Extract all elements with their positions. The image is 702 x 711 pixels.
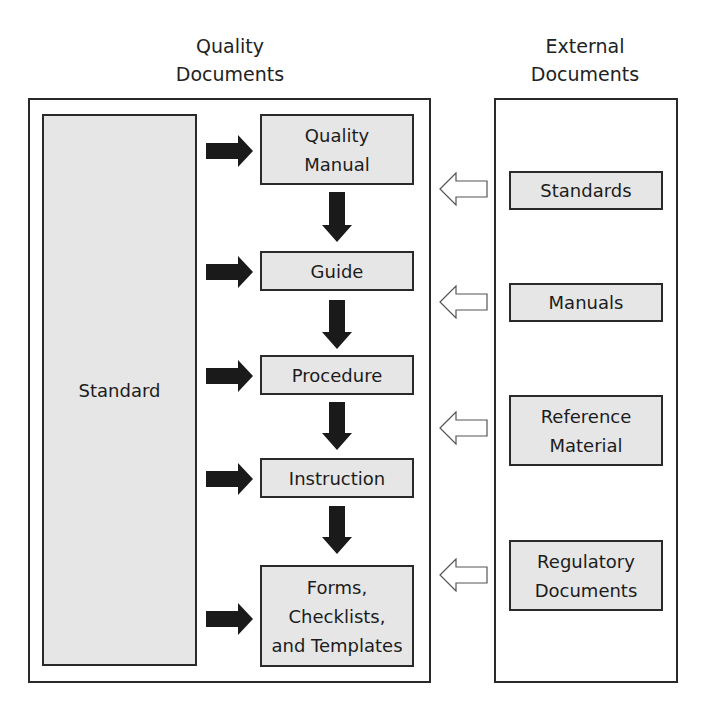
solid-right-arrow-icon [206, 463, 254, 495]
regulatory-documents-box: Regulatory Documents [509, 540, 663, 611]
solid-right-arrow-icon [206, 256, 254, 288]
standard-box: Standard [42, 114, 197, 666]
guide-box: Guide [260, 251, 414, 291]
forms-checklists-templates-label: Forms, Checklists, and Templates [271, 573, 402, 660]
solid-right-arrow-icon [206, 603, 254, 635]
quality-manual-box: Quality Manual [260, 114, 414, 185]
standard-label: Standard [79, 376, 161, 405]
instruction-box: Instruction [260, 458, 414, 498]
forms-checklists-templates-box: Forms, Checklists, and Templates [260, 565, 414, 667]
hollow-left-arrow-icon [439, 558, 489, 592]
standards-label: Standards [540, 176, 631, 205]
solid-right-arrow-icon [206, 360, 254, 392]
solid-down-arrow-icon [322, 402, 352, 450]
solid-down-arrow-icon [322, 192, 352, 242]
manuals-label: Manuals [549, 288, 624, 317]
solid-down-arrow-icon [322, 300, 352, 349]
hollow-left-arrow-icon [439, 172, 489, 206]
standards-box: Standards [509, 171, 663, 210]
quality-documents-heading: Quality Documents [150, 32, 310, 88]
solid-down-arrow-icon [322, 506, 352, 554]
reference-material-box: Reference Material [509, 395, 663, 466]
manals-box: Manuals [509, 283, 663, 322]
solid-right-arrow-icon [206, 135, 254, 167]
hollow-left-arrow-icon [439, 285, 489, 319]
regulatory-documents-label: Regulatory Documents [535, 547, 638, 605]
procedure-box: Procedure [260, 355, 414, 395]
quality-manual-label: Quality Manual [304, 121, 369, 179]
external-documents-heading: External Documents [505, 32, 665, 88]
hollow-left-arrow-icon [439, 411, 489, 445]
guide-label: Guide [311, 257, 364, 286]
procedure-label: Procedure [292, 361, 382, 390]
instruction-label: Instruction [289, 464, 385, 493]
reference-material-label: Reference Material [541, 402, 632, 460]
